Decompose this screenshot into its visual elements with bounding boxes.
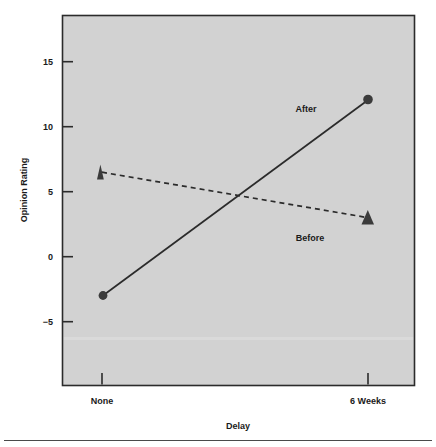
y-tick-label-10: 10 [43,122,53,132]
series-label-before: Before [296,233,325,243]
plot-area-background [63,16,415,386]
series-label-after: After [295,104,316,114]
y-tick-label-minus5: −5 [43,317,53,327]
x-axis-tick-labels: None 6 Weeks [91,396,386,406]
y-tick-label-5: 5 [48,187,53,197]
series-after-marker-none [99,291,108,300]
series-after-marker-6weeks [363,95,373,105]
x-tick-label-6weeks: 6 Weeks [350,396,386,406]
plot-artifact-band [64,337,414,340]
x-axis-title: Delay [226,421,250,431]
line-chart-svg: 15 10 5 0 −5 Opinion Rating None 6 Weeks… [0,0,436,447]
y-axis-tick-labels: 15 10 5 0 −5 [43,57,53,327]
x-tick-label-none: None [91,396,114,406]
y-tick-label-15: 15 [43,57,53,67]
chart-figure: 15 10 5 0 −5 Opinion Rating None 6 Weeks… [0,0,436,447]
y-axis-title: Opinion Rating [19,158,29,223]
y-tick-label-0: 0 [48,252,53,262]
